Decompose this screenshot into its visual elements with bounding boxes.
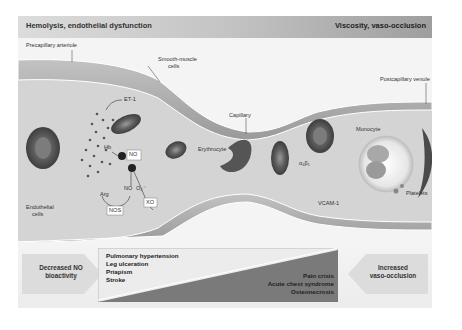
label-arg: Arg [100, 191, 109, 197]
vaso-occlusion-conditions-list: Pain crisis Acute chest syndrome Osteone… [268, 272, 334, 296]
condition-item: Osteonecrosis [268, 288, 334, 296]
header-right-title: Viscosity, vaso-occlusion [335, 21, 426, 30]
label-et1: ET-1 [124, 96, 136, 102]
label-postcapillary-venule: Postcapillary venule [380, 76, 430, 82]
label-monocyte: Monocyte [356, 126, 380, 132]
condition-item: Pulmonary hypertension [106, 252, 179, 260]
header-bar: Hemolysis, endothelial dysfunction Visco… [18, 16, 432, 38]
right-arrow-line2: vaso-occlusion [360, 272, 426, 280]
label-xo: XO [146, 199, 154, 205]
condition-item: Acute chest syndrome [268, 280, 334, 288]
vessel-illustration: Precapillary arteriole Smooth-muscle cel… [18, 38, 432, 242]
label-erythrocyte: Erythrocyte [198, 146, 226, 152]
condition-item: Leg ulceration [106, 260, 179, 268]
label-capillary: Capillary [229, 112, 251, 118]
decreased-no-bioactivity-label: Decreased NO bioactivity [28, 264, 94, 281]
label-smooth-muscle-cells-1: Smooth-muscle [158, 56, 197, 62]
label-integrin: α₄β₁ [299, 160, 310, 166]
vessel-svg [18, 38, 432, 242]
left-arrow-line1: Decreased NO [28, 264, 94, 272]
sickle-cell-pathophysiology-figure: Hemolysis, endothelial dysfunction Visco… [18, 16, 432, 308]
label-vcam1: VCAM-1 [318, 200, 339, 206]
label-platelets: Platelets [406, 190, 427, 196]
condition-item: Stroke [106, 276, 179, 284]
label-endothelial-cells-2: cells [32, 211, 43, 217]
condition-item: Pain crisis [268, 272, 334, 280]
left-arrow-line2: bioactivity [28, 272, 94, 280]
label-no-bottom: NO [124, 185, 132, 191]
hemolysis-conditions-list: Pulmonary hypertension Leg ulceration Pr… [106, 252, 179, 284]
label-precapillary-arteriole: Precapillary arteriole [26, 42, 77, 48]
clinical-spectrum-panel: Decreased NO bioactivity Pulmonary hyper… [18, 242, 432, 308]
label-no-top: NO [129, 151, 137, 157]
header-left-title: Hemolysis, endothelial dysfunction [26, 21, 152, 30]
label-smooth-muscle-cells-2: cells [168, 63, 179, 69]
label-nos: NOS [109, 207, 121, 213]
condition-item: Priapism [106, 268, 179, 276]
label-superoxide: O₂⁻ [136, 185, 146, 191]
right-arrow-line1: Increased [360, 264, 426, 272]
increased-vaso-occlusion-label: Increased vaso-occlusion [360, 264, 426, 281]
label-endothelial-cells-1: Endothelial [26, 204, 54, 210]
label-hb: Hb [104, 144, 111, 150]
